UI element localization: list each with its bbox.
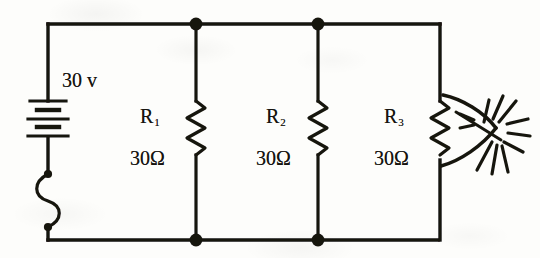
junction-dot-bottom-left [190,234,203,247]
resistor-r2-subscript: 2 [280,116,286,128]
spark-burst-symbol [441,95,530,174]
resistor-r2-designator: R [266,105,279,127]
burst-inner-spark-2 [460,125,474,128]
circuit-diagram-page: 30 v R1 30Ω R2 30Ω R3 30Ω [0,0,540,258]
resistor-r1-subscript: 1 [154,116,160,128]
burst-ray-up-3 [499,101,516,122]
burst-ray-right-1 [507,119,528,124]
source-voltage-label: 30 v [62,70,97,90]
resistor-r1-designator: R [140,105,153,127]
burst-ray-down-2 [492,145,497,174]
junction-dot-top-left [190,18,203,31]
branch-r3 [431,101,449,155]
resistor-r3-subscript: 3 [398,116,404,128]
branch-r1 [187,24,205,240]
resistor-r1-zigzag [187,101,205,155]
battery-symbol [28,101,68,136]
schematic-canvas [0,0,540,258]
resistor-r3-designator: R [384,105,397,127]
resistor-r2-zigzag [309,101,327,155]
resistor-r3-value: 30Ω [374,148,409,168]
burst-ray-down-3 [502,146,508,172]
fuse-terminal-bottom [44,223,52,231]
fuse-s-curve [37,174,60,227]
junction-dot-bottom-right [312,234,325,247]
resistor-r2-value: 30Ω [256,148,291,168]
junction-dot-top-right [312,18,325,31]
branch-r2 [309,24,327,240]
resistor-r1-value: 30Ω [130,148,165,168]
burst-ray-right-2 [508,133,530,136]
burst-ray-right-3 [504,142,523,152]
resistor-r1-label: R1 [140,106,159,126]
burst-ray-up-2 [493,96,503,119]
resistor-r3-label: R3 [384,106,403,126]
resistor-r3-zigzag [431,101,449,155]
resistor-r2-label: R2 [266,106,285,126]
fuse-symbol [37,170,60,231]
fuse-terminal-top [44,170,52,178]
